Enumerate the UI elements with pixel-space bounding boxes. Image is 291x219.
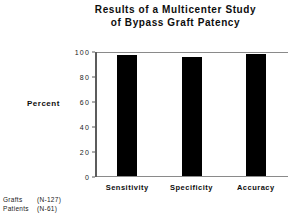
footnote-row: Grafts(N-127) xyxy=(3,195,61,204)
bar-specificity xyxy=(182,57,202,176)
y-axis-tick-label: 80 xyxy=(80,74,90,81)
bar-accuracy xyxy=(246,54,266,177)
x-axis-tick-label: Specificity xyxy=(170,183,213,192)
y-axis-tick-label: 100 xyxy=(75,49,90,56)
y-axis-tick-label: 20 xyxy=(80,149,90,156)
plot-area: 020406080100 SensitivitySpecificityAccur… xyxy=(95,52,288,177)
x-axis-tick-label: Accuracy xyxy=(237,183,275,192)
y-axis-tick-label: 60 xyxy=(80,99,90,106)
y-axis-tick-mark xyxy=(92,52,95,53)
y-axis-tick-label: 0 xyxy=(85,174,90,181)
footnote-value: (N-127) xyxy=(37,195,61,204)
y-axis-line xyxy=(95,52,97,177)
y-axis-tick-mark xyxy=(92,152,95,153)
chart-title-line-2: of Bypass Graft Patency xyxy=(60,16,291,29)
y-axis-tick-mark xyxy=(92,102,95,103)
footnote-block: Grafts(N-127)Patients(N-61) xyxy=(3,195,61,213)
chart-title: Results of a Multicenter Study of Bypass… xyxy=(60,3,291,29)
y-axis-tick-mark xyxy=(92,177,95,178)
y-axis-tick-mark xyxy=(92,77,95,78)
y-axis-tick-mark xyxy=(92,127,95,128)
chart-title-line-1: Results of a Multicenter Study xyxy=(60,3,291,16)
footnote-value: (N-61) xyxy=(37,204,57,213)
y-axis-tick-label: 40 xyxy=(80,124,90,131)
footnote-row: Patients(N-61) xyxy=(3,204,61,213)
bar-sensitivity xyxy=(117,55,137,176)
x-axis-line xyxy=(95,176,288,177)
bar-chart-figure: Results of a Multicenter Study of Bypass… xyxy=(0,0,291,219)
x-axis-tick-label: Sensitivity xyxy=(106,183,149,192)
footnote-label: Patients xyxy=(3,204,37,213)
y-axis-title: Percent xyxy=(27,99,60,108)
footnote-label: Grafts xyxy=(3,195,37,204)
